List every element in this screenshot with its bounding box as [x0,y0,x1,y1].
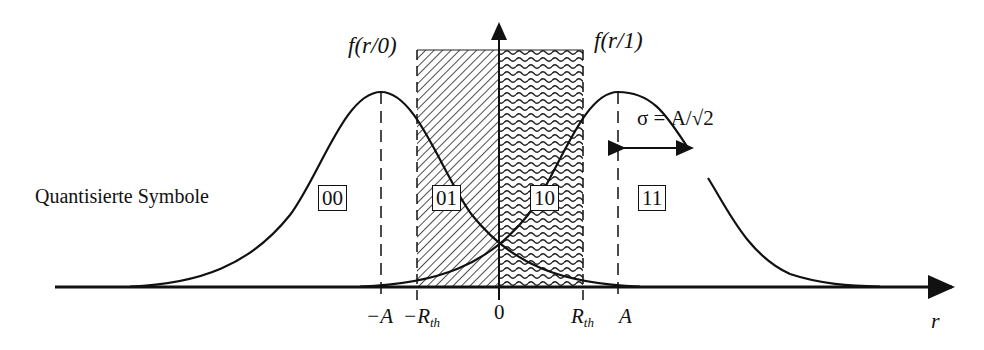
region-label-11: 11 [638,185,666,211]
region-label-00: 00 [318,185,347,211]
tick-label-A: A [619,304,632,329]
tick-label-Rth: Rth [571,304,594,331]
curve-label-f-r-1: f(r/1) [594,28,643,54]
region-label-10: 10 [530,185,559,211]
region-01-hatch [417,50,499,287]
tick-label-neg-A: −A [366,304,393,329]
tick-label-neg-Rth: −Rth [403,304,440,331]
sigma-label: σ = A/√2 [637,106,714,131]
tick-label-zero: 0 [494,300,505,325]
curve-label-f-r-0: f(r/0) [348,33,397,59]
region-label-01: 01 [432,185,461,211]
x-axis-label: r [931,308,940,334]
diagram-canvas [0,0,984,350]
side-label: Quantisierte Symbole [35,185,209,208]
